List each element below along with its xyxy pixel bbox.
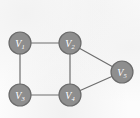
nodes-group: V1V2V3V4V5 (9, 32, 133, 106)
graph-node-v3[interactable]: V3 (9, 84, 31, 106)
node-subscript-v1: 1 (21, 43, 24, 50)
graph-canvas: V1V2V3V4V5 (0, 0, 140, 118)
graph-node-v4[interactable]: V4 (59, 84, 81, 106)
graph-node-v2[interactable]: V2 (59, 32, 81, 54)
graph-node-v1[interactable]: V1 (9, 32, 31, 54)
graph-figure: V1V2V3V4V5 (0, 0, 140, 118)
node-subscript-v3: 3 (20, 95, 25, 102)
graph-node-v5[interactable]: V5 (111, 61, 133, 83)
